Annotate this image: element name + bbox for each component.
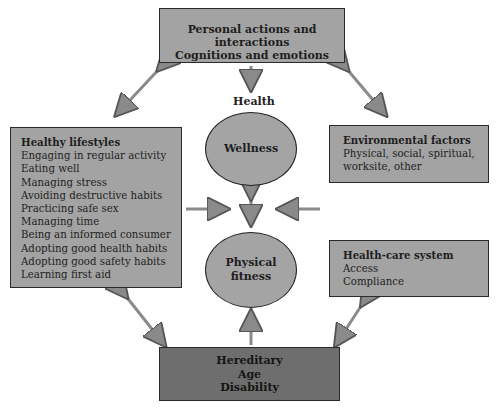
wellness-ellipse: Wellness [205,112,297,186]
top-box-line-2: Cognitions and emotions [160,49,344,62]
lifestyle-item: Managing stress [21,176,181,189]
bottom-line-3: Disability [160,381,339,395]
top-box-line-1: Personal actions and interactions [160,23,344,49]
lifestyle-item: Engaging in regular activity [21,149,181,162]
environmental-title: Environmental factors [343,134,488,147]
physical-fitness-ellipse: Physical fitness [205,232,297,308]
health-care-line: Access [343,262,488,275]
arrow-top-lifestyles [118,68,160,113]
environmental-factors-box: Environmental factors Physical, social, … [329,125,489,183]
health-care-system-box: Health-care system Access Compliance [329,240,489,297]
bottom-line-2: Age [160,368,339,382]
personal-actions-box: Personal actions and interactions Cognit… [159,8,345,63]
health-care-line: Compliance [343,275,488,288]
lifestyle-item: Adopting good health habits [21,242,181,255]
environmental-line: Physical, social, spiritual, [343,147,488,160]
health-care-title: Health-care system [343,249,488,262]
environmental-line: worksite, other [343,160,488,173]
arrow-hcs-bottom [337,303,363,343]
wellness-label: Wellness [224,142,278,156]
health-label: Health [233,95,275,108]
fitness-line-2: fitness [225,270,276,284]
lifestyle-item: Avoiding destructive habits [21,189,181,202]
healthy-lifestyles-title: Healthy lifestyles [21,136,181,149]
fitness-line-1: Physical [225,256,276,270]
lifestyle-item: Practicing safe sex [21,202,181,215]
bottom-line-1: Hereditary [160,354,339,368]
lifestyle-item: Managing time [21,215,181,228]
arrow-lifestyles-bottom [125,295,163,343]
lifestyle-item: Adopting good safety habits [21,255,181,268]
healthy-lifestyles-box: Healthy lifestyles Engaging in regular a… [10,127,182,288]
arrow-top-environment [346,68,384,113]
hereditary-box: Hereditary Age Disability [159,347,340,401]
lifestyle-item: Being an informed consumer [21,228,181,241]
lifestyle-item: Learning first aid [21,268,181,281]
lifestyle-item: Eating well [21,162,181,175]
